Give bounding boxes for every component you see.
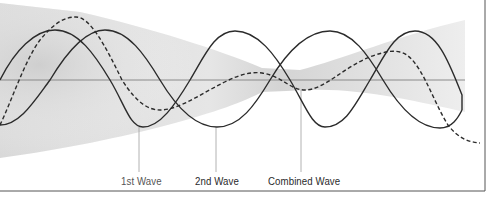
second-wave-label: 2nd Wave	[195, 175, 239, 187]
wave-interference-diagram	[0, 0, 501, 201]
combined-wave-label: Combined Wave	[268, 175, 340, 187]
first-wave-label: 1st Wave	[121, 175, 162, 187]
